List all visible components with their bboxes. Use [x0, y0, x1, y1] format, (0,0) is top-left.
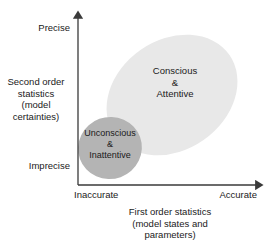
region-label-unconscious-line-3: Inattentive [72, 150, 148, 161]
x-axis-title-line-2: (model states and [80, 218, 260, 230]
y-axis-bottom-label: Imprecise [0, 160, 70, 172]
x-axis-title-line-3: parameters) [80, 229, 260, 241]
x-axis-title: First order statistics (model states and… [80, 206, 260, 241]
y-axis-top-label: Precise [0, 22, 70, 34]
y-axis-title-line-3: (model [0, 99, 72, 111]
x-axis-right-label: Accurate [195, 189, 257, 201]
region-label-unconscious-inattentive: Unconscious & Inattentive [72, 128, 148, 161]
y-axis-title-line-1: Second order [0, 76, 72, 88]
y-axis-title-line-4: certainties) [0, 111, 72, 123]
region-label-conscious-line-1: Conscious [128, 65, 222, 77]
region-label-unconscious-line-2: & [72, 139, 148, 150]
x-axis-title-line-1: First order statistics [80, 206, 260, 218]
y-axis-title-line-2: statistics [0, 88, 72, 100]
y-axis-title: Second order statistics (model certainti… [0, 76, 72, 122]
diagram-canvas: Precise Imprecise Second order statistic… [0, 0, 269, 247]
region-label-conscious-attentive: Conscious & Attentive [128, 65, 222, 100]
x-axis-left-label: Inaccurate [74, 189, 118, 201]
region-label-conscious-line-2: & [128, 77, 222, 89]
region-label-unconscious-line-1: Unconscious [72, 128, 148, 139]
region-label-conscious-line-3: Attentive [128, 88, 222, 100]
